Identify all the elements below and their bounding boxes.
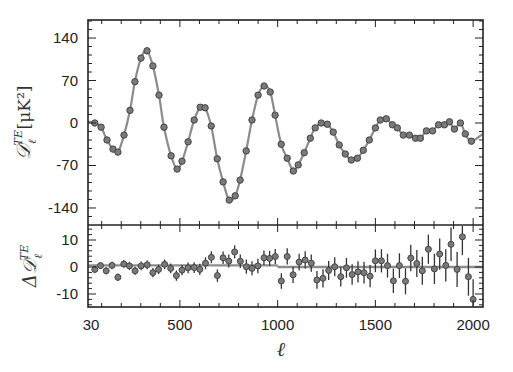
- data-point: [318, 120, 324, 126]
- residual-point: [385, 263, 391, 269]
- residual-point: [278, 278, 284, 284]
- residual-point: [290, 272, 296, 278]
- data-point: [132, 79, 138, 85]
- data-point: [226, 197, 232, 203]
- residual-point: [214, 273, 220, 279]
- residual-point: [396, 263, 402, 269]
- bottom-panel: [88, 226, 483, 306]
- data-point: [446, 119, 452, 125]
- residual-point: [284, 254, 290, 260]
- data-point: [138, 55, 144, 61]
- x-axis-title: ℓ: [277, 337, 286, 361]
- residual-point: [243, 264, 249, 270]
- data-point: [243, 148, 249, 154]
- residual-point: [320, 275, 326, 281]
- data-point: [290, 168, 296, 174]
- data-point: [348, 157, 354, 163]
- residual-point: [255, 263, 261, 269]
- residual-point: [465, 274, 471, 280]
- residual-point: [132, 268, 138, 274]
- data-point: [383, 116, 389, 122]
- x-tick-label: 500: [167, 316, 192, 333]
- residual-point: [314, 277, 320, 283]
- residual-point: [220, 255, 226, 261]
- x-tick-label: 1500: [359, 316, 392, 333]
- data-point: [161, 124, 167, 130]
- data-point: [366, 137, 372, 143]
- x-tick-label: 1000: [261, 316, 294, 333]
- y-tick-label-bottom: -10: [56, 285, 78, 302]
- residual-point: [267, 255, 273, 261]
- residual-point: [203, 260, 209, 266]
- data-point: [98, 124, 104, 130]
- residual-point: [459, 234, 465, 240]
- data-point: [330, 129, 336, 135]
- data-point: [185, 139, 191, 145]
- data-point: [336, 142, 342, 148]
- bottom-y-axis-title: Δ𝒟TEℓ: [18, 245, 45, 288]
- data-point: [156, 92, 162, 98]
- te-power-spectrum-figure: 140700-70-140100-1030500100015002000 𝒟TE…: [0, 0, 513, 372]
- data-point: [261, 83, 267, 89]
- data-point: [312, 125, 318, 131]
- data-point: [267, 89, 273, 95]
- y-tick-label-bottom: 0: [70, 258, 78, 275]
- data-point: [232, 193, 238, 199]
- residual-point: [150, 270, 156, 276]
- data-point: [417, 135, 423, 141]
- residual-point: [419, 268, 425, 274]
- residual-point: [403, 278, 409, 284]
- data-point: [214, 156, 220, 162]
- residual-point: [126, 263, 132, 269]
- residual-point: [367, 273, 373, 279]
- model-curve: [88, 51, 483, 201]
- residual-point: [237, 258, 243, 264]
- residual-point: [162, 261, 168, 267]
- data-point: [220, 179, 226, 185]
- top-panel: [88, 48, 483, 204]
- residual-point: [338, 274, 344, 280]
- residual-point: [326, 268, 332, 274]
- top-data-points: [92, 48, 475, 204]
- data-point: [121, 132, 127, 138]
- data-point: [272, 112, 278, 118]
- data-point: [237, 177, 243, 183]
- residual-point: [349, 272, 355, 278]
- y-tick-label-top: 140: [53, 29, 78, 46]
- y-tick-label-top: 0: [70, 114, 78, 131]
- data-point: [429, 128, 435, 134]
- data-point: [295, 162, 301, 168]
- residual-point: [261, 255, 267, 261]
- data-point: [360, 147, 366, 153]
- data-point: [354, 155, 360, 161]
- residual-point: [372, 258, 378, 264]
- residual-point: [414, 261, 420, 267]
- data-point: [127, 107, 133, 113]
- data-point: [249, 117, 255, 123]
- residual-point: [425, 246, 431, 252]
- data-point: [406, 132, 412, 138]
- y-tick-label-top: -70: [56, 156, 78, 173]
- x-tick-label: 2000: [456, 316, 489, 333]
- data-point: [342, 151, 348, 157]
- residual-point: [121, 261, 127, 267]
- residual-point: [197, 266, 203, 272]
- residual-point: [272, 254, 278, 260]
- data-point: [468, 138, 474, 144]
- residual-point: [378, 258, 384, 264]
- data-point: [377, 117, 383, 123]
- data-point: [208, 123, 214, 129]
- residual-point: [437, 251, 443, 257]
- top-y-axis-title: 𝒟TEℓ[μK²]: [12, 86, 39, 161]
- data-point: [451, 126, 457, 132]
- data-point: [462, 131, 468, 137]
- data-point: [179, 158, 185, 164]
- residual-point: [226, 258, 232, 264]
- residual-point: [390, 278, 396, 284]
- data-point: [174, 166, 180, 172]
- residual-point: [249, 265, 255, 271]
- data-point: [423, 128, 429, 134]
- y-tick-label-top: -140: [48, 199, 78, 216]
- residual-point: [179, 267, 185, 273]
- data-point: [372, 125, 378, 131]
